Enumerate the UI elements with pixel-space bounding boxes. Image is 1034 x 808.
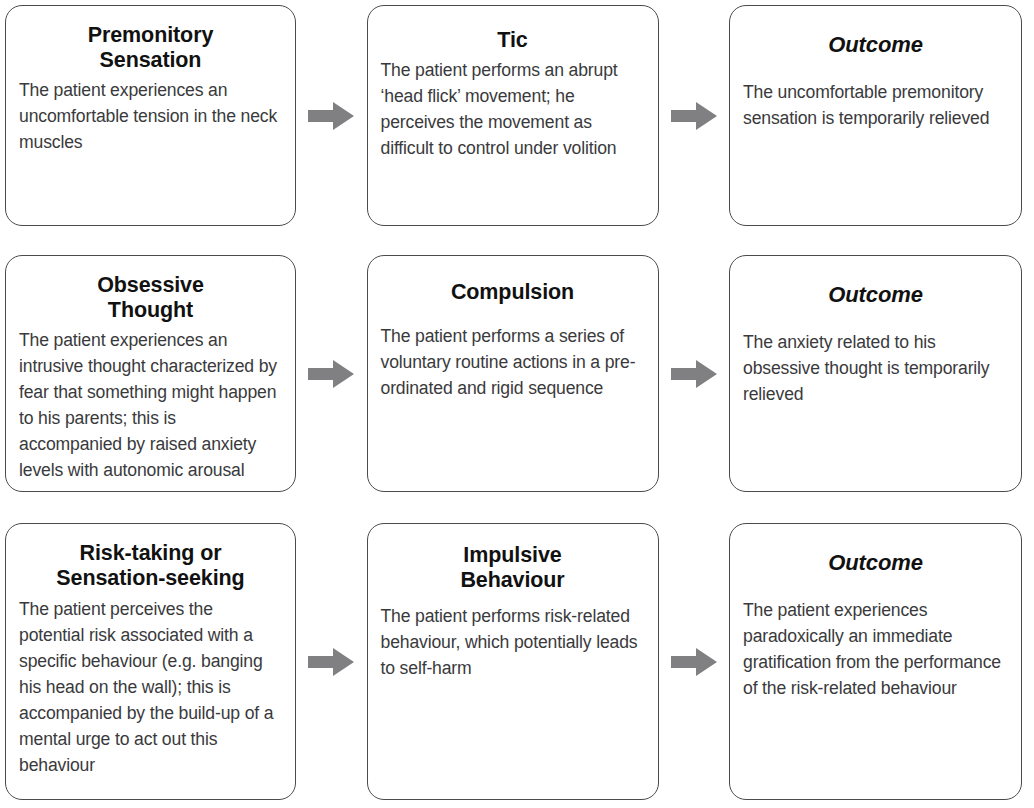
flow-diagram: Premonitory Sensation The patient experi… xyxy=(0,0,1034,808)
box-title: Outcome xyxy=(743,550,1008,575)
arrow-right-icon xyxy=(671,646,717,678)
box-title: Obsessive Thought xyxy=(19,273,282,323)
box-body: The patient performs risk-related behavi… xyxy=(381,603,645,681)
box-title: Compulsion xyxy=(381,280,645,305)
arrow-right-icon xyxy=(671,100,717,132)
row-spacer xyxy=(5,226,1022,255)
flow-arrow xyxy=(659,523,730,800)
box-body: The uncomfortable premonitory sensation … xyxy=(743,79,1008,131)
box-body: The patient experiences paradoxically an… xyxy=(743,597,1008,701)
flow-arrow xyxy=(296,523,367,800)
flow-arrow xyxy=(659,5,730,226)
box-body: The patient experiences an uncomfortable… xyxy=(19,77,282,155)
box-title: Tic xyxy=(381,28,645,53)
box-body: The patient performs a series of volunta… xyxy=(381,323,645,401)
flow-box-risk-taking-or-sensation-seeking: Risk-taking or Sensation-seeking The pat… xyxy=(5,523,296,800)
flow-box-outcome-tic: Outcome The uncomfortable premonitory se… xyxy=(729,5,1022,226)
flow-arrow xyxy=(296,5,367,226)
flow-box-outcome-impulsive: Outcome The patient experiences paradoxi… xyxy=(729,523,1022,800)
flow-box-impulsive-behaviour: Impulsive Behaviour The patient performs… xyxy=(367,523,659,800)
diagram-row: Risk-taking or Sensation-seeking The pat… xyxy=(5,523,1022,800)
box-title: Impulsive Behaviour xyxy=(381,543,645,593)
arrow-right-icon xyxy=(308,646,354,678)
box-body: The anxiety related to his obsessive tho… xyxy=(743,329,1008,407)
flow-arrow xyxy=(659,255,730,492)
box-body: The patient performs an abrupt ‘head fli… xyxy=(381,57,645,161)
box-title: Outcome xyxy=(743,32,1008,57)
flow-box-outcome-compulsion: Outcome The anxiety related to his obses… xyxy=(729,255,1022,492)
diagram-row: Premonitory Sensation The patient experi… xyxy=(5,5,1022,226)
diagram-row: Obsessive Thought The patient experience… xyxy=(5,255,1022,492)
box-title: Risk-taking or Sensation-seeking xyxy=(19,541,282,591)
flow-box-obsessive-thought: Obsessive Thought The patient experience… xyxy=(5,255,296,492)
arrow-right-icon xyxy=(308,100,354,132)
flow-box-compulsion: Compulsion The patient performs a series… xyxy=(367,255,659,492)
box-title: Premonitory Sensation xyxy=(19,23,282,73)
arrow-right-icon xyxy=(308,358,354,390)
flow-box-premonitory-sensation: Premonitory Sensation The patient experi… xyxy=(5,5,296,226)
box-title: Outcome xyxy=(743,282,1008,307)
row-spacer xyxy=(5,492,1022,523)
flow-box-tic: Tic The patient performs an abrupt ‘head… xyxy=(367,5,659,226)
flow-arrow xyxy=(296,255,367,492)
arrow-right-icon xyxy=(671,358,717,390)
box-body: The patient experiences an intrusive tho… xyxy=(19,327,282,483)
box-body: The patient perceives the potential risk… xyxy=(19,596,282,778)
